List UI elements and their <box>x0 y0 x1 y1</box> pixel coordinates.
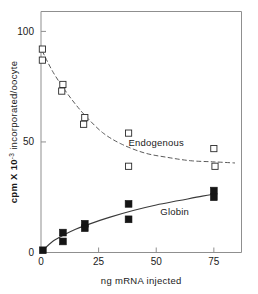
data-point-open-square <box>125 130 131 136</box>
data-point-filled-square <box>210 194 217 201</box>
data-point-filled-square <box>39 247 46 254</box>
x-axis-tick-label: 0 <box>38 256 44 267</box>
data-point-open-square <box>59 88 65 94</box>
x-axis-tick-label: 50 <box>151 256 163 267</box>
data-point-filled-square <box>125 200 132 207</box>
data-point-open-square <box>212 163 218 169</box>
x-axis-title: ng mRNA injected <box>101 275 182 286</box>
data-point-filled-square <box>81 225 88 232</box>
y-axis-title-prefix: cpm X 10 <box>8 159 19 203</box>
data-point-open-square <box>125 163 131 169</box>
figure-container: 0255075050100EndogenousGlobinng mRNA inj… <box>0 0 258 294</box>
series-label-endogenous: Endogenous <box>129 137 184 148</box>
series-endogenous: Endogenous <box>39 46 234 169</box>
y-axis-title-text: cpm X 10-3 incorporated/oocyte <box>8 61 19 204</box>
y-axis-title-suffix: incorporated/oocyte <box>8 61 19 153</box>
x-axis-tick-label: 25 <box>93 256 105 267</box>
data-point-open-square <box>60 81 66 87</box>
data-point-open-square <box>39 46 45 52</box>
data-point-filled-square <box>210 187 217 194</box>
data-point-open-square <box>211 145 217 151</box>
data-point-filled-square <box>59 238 66 245</box>
y-axis-tick-label: 50 <box>23 136 35 147</box>
y-axis-tick-label: 0 <box>28 247 34 258</box>
data-point-open-square <box>81 121 87 127</box>
scatter-plot: 0255075050100EndogenousGlobinng mRNA inj… <box>0 0 258 294</box>
y-axis-tick-label: 100 <box>17 26 34 37</box>
series-globin: Globin <box>39 187 217 254</box>
series-label-globin: Globin <box>160 206 189 217</box>
y-axis-title: cpm X 10-3 incorporated/oocyte <box>8 61 19 204</box>
data-point-filled-square <box>59 229 66 236</box>
data-point-open-square <box>82 115 88 121</box>
data-point-filled-square <box>125 216 132 223</box>
plot-frame <box>41 12 242 253</box>
x-axis-tick-label: 75 <box>208 256 220 267</box>
data-point-open-square <box>39 57 45 63</box>
